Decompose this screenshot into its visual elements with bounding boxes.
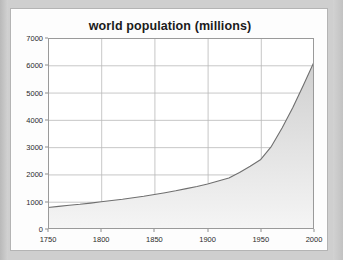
x-axis-tick-label: 1900 [199, 235, 216, 244]
y-axis-tick-mark [45, 92, 48, 93]
x-axis-tick-mark [48, 229, 49, 232]
y-axis-tick-mark [45, 147, 48, 148]
x-axis-tick-label: 1800 [93, 235, 110, 244]
x-axis-tick-mark [101, 229, 102, 232]
y-axis-tick-label: 0 [39, 225, 43, 234]
y-axis-tick-label: 1000 [26, 197, 43, 206]
y-axis-tick-label: 3000 [26, 143, 43, 152]
chart-card: world population (millions) 010002000300… [10, 8, 328, 251]
y-axis-tick-mark [45, 119, 48, 120]
plot-area: 01000200030004000500060007000 1750180018… [48, 38, 314, 229]
y-axis-tick-label: 2000 [26, 170, 43, 179]
x-axis-tick-label: 2000 [306, 235, 323, 244]
y-axis-tick-label: 7000 [26, 34, 43, 43]
chart-svg [48, 38, 314, 229]
x-axis-tick-label: 1750 [40, 235, 57, 244]
y-axis-tick-mark [45, 38, 48, 39]
x-axis-tick-label: 1850 [146, 235, 163, 244]
y-axis-tick-mark [45, 174, 48, 175]
chart-title: world population (millions) [11, 19, 329, 33]
y-axis-tick-label: 4000 [26, 115, 43, 124]
x-axis-tick-mark [207, 229, 208, 232]
x-axis-tick-mark [154, 229, 155, 232]
y-axis-tick-label: 5000 [26, 88, 43, 97]
page-background: world population (millions) 010002000300… [0, 0, 343, 260]
y-axis-tick-mark [45, 201, 48, 202]
x-axis-tick-mark [314, 229, 315, 232]
x-axis-tick-label: 1950 [252, 235, 269, 244]
x-axis-tick-mark [260, 229, 261, 232]
y-axis-tick-mark [45, 65, 48, 66]
y-axis-tick-label: 6000 [26, 61, 43, 70]
